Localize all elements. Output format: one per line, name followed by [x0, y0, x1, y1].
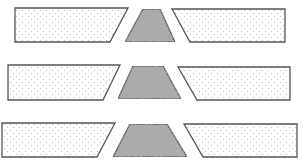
diagram-canvas — [0, 0, 303, 167]
right-parallelogram — [178, 67, 290, 100]
center-trapezoid — [125, 9, 175, 42]
row-3 — [2, 123, 297, 157]
row-2 — [8, 65, 290, 100]
row-1 — [15, 8, 285, 42]
left-parallelogram — [8, 65, 120, 100]
right-parallelogram — [172, 9, 285, 42]
left-parallelogram — [2, 123, 115, 157]
center-trapezoid — [113, 124, 187, 157]
center-trapezoid — [118, 66, 181, 99]
trapezoid-diagram — [0, 0, 303, 167]
right-parallelogram — [184, 124, 297, 157]
left-parallelogram — [15, 8, 128, 42]
